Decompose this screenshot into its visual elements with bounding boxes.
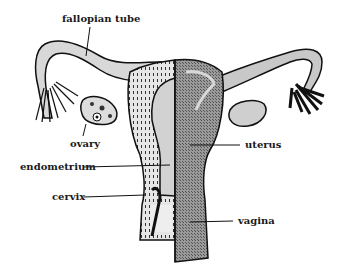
uterus-right-section [175, 60, 223, 263]
reproductive-system-diagram [0, 0, 341, 270]
label-ovary: ovary [70, 139, 100, 149]
label-uterus: uterus [245, 140, 281, 150]
left-ovary [81, 97, 117, 125]
label-cervix: cervix [52, 192, 85, 202]
right-ovary [229, 101, 266, 127]
uterus-left-section [128, 60, 175, 240]
label-vagina: vagina [238, 216, 275, 226]
label-fallopian-tube: fallopian tube [62, 14, 140, 24]
label-endometrium: endometrium [20, 162, 96, 172]
